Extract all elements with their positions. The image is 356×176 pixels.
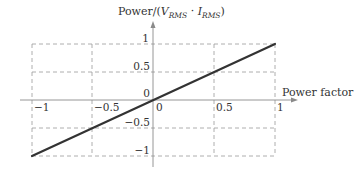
axes [20, 21, 298, 167]
y-axis-arrow-icon [151, 21, 156, 28]
x-tick-label: −0.5 [94, 101, 120, 113]
x-axis-title: Power factor [282, 86, 354, 99]
x-tick-label: −1 [34, 101, 49, 113]
y-tick-label: 0 [143, 87, 150, 99]
x-tick-label: 1 [277, 101, 284, 113]
chart: Power/(VRMS · IRMS) Power factor 1 0.5 0… [0, 0, 356, 176]
x-tick-labels: −1 −0.5 0 0.5 1 [34, 101, 284, 113]
y-tick-label: −0.5 [125, 116, 151, 128]
y-tick-labels: 1 0.5 0 −0.5 −1 [125, 32, 151, 156]
y-axis-title: Power/(VRMS · IRMS) [118, 5, 225, 20]
y-tick-label: 0.5 [133, 60, 150, 72]
y-tick-label: −1 [135, 144, 150, 156]
x-tick-label: 0 [156, 101, 163, 113]
y-tick-label: 1 [142, 32, 149, 44]
x-tick-label: 0.5 [216, 101, 233, 113]
